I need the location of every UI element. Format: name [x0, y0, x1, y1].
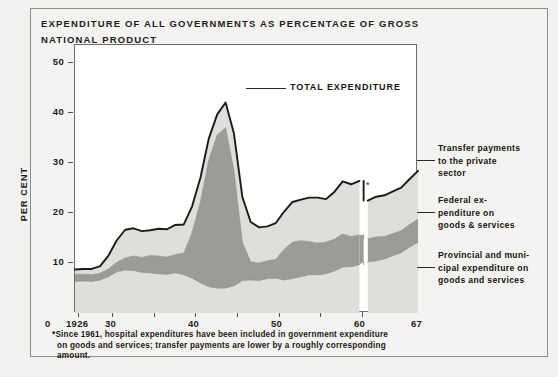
footnote-line-2: on goods and services; transfer payments… [52, 341, 452, 352]
total-expenditure-label: TOTAL EXPENDITURE [290, 82, 401, 92]
footnote-line-3: amount. [52, 351, 452, 362]
footnote-line-1: Since 1961, hospital expenditures have b… [55, 330, 388, 339]
x-tick-label-1950: 50 [271, 318, 282, 329]
transfer-payments-label: Transfer payments to the private sector [438, 142, 548, 180]
footnote: *Since 1961, hospital expenditures have … [52, 330, 452, 362]
provincial-expenditure-label: Provincial and muni- cipal expenditure o… [438, 249, 554, 287]
y-tick-mark [68, 62, 73, 63]
x-tick-label-origin: 0 [45, 318, 51, 329]
figure-expenditure-gnp: EXPENDITURE OF ALL GOVERNMENTS AS PERCEN… [0, 0, 558, 377]
y-tick-label-10: 10 [38, 256, 64, 267]
transfer-payments-leader [417, 160, 435, 161]
y-tick-label-30: 30 [38, 156, 64, 167]
total-expenditure-leader [246, 88, 286, 89]
x-tick-label-1940: 40 [188, 318, 199, 329]
svg-text:*: * [366, 180, 370, 190]
y-tick-mark [68, 262, 73, 263]
x-tick-label-1926: 1926 [66, 318, 88, 329]
federal-expenditure-label: Federal ex- penditure on goods & service… [438, 194, 548, 232]
provincial-expenditure-leader [417, 267, 435, 268]
x-tick-label-1960: 60 [354, 318, 365, 329]
y-tick-label-40: 40 [38, 106, 64, 117]
y-tick-mark [68, 162, 73, 163]
y-axis-label: PER CENT [19, 167, 29, 221]
x-tick-label-1967: 67 [411, 318, 422, 329]
y-tick-label-20: 20 [38, 206, 64, 217]
y-tick-mark [68, 212, 73, 213]
y-tick-label-50: 50 [38, 56, 64, 67]
y-tick-mark [68, 112, 73, 113]
x-tick-label-1930: 30 [105, 318, 116, 329]
federal-expenditure-leader [417, 212, 435, 213]
